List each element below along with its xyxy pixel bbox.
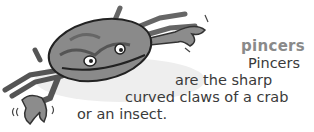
definition-line: curved claws of a crab	[125, 89, 288, 106]
headword: pincers	[241, 37, 305, 55]
definition-line: are the sharp	[175, 72, 272, 89]
definition-line: or an insect.	[77, 106, 167, 123]
definition-line: Pincers	[248, 55, 300, 72]
